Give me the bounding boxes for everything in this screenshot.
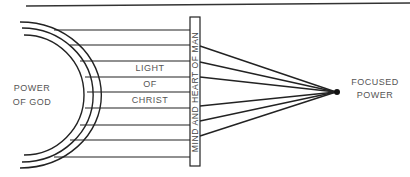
target-label-line2: POWER [345, 91, 405, 100]
lens-label: MIND AND HEART OF MAN [190, 25, 200, 159]
source-label-line2: OF GOD [10, 98, 54, 107]
target-label-line1: FOCUSED [345, 78, 405, 87]
target-label: FOCUSED POWER [345, 78, 405, 100]
source-label: POWER OF GOD [10, 84, 54, 107]
converging-rays [200, 46, 336, 136]
top-rule [26, 3, 410, 6]
channel-label-line3: CHRIST [120, 96, 180, 105]
focal-point [334, 89, 340, 95]
source-label-line1: POWER [10, 84, 54, 93]
channel-label-line1: LIGHT [120, 64, 180, 73]
channel-label-line2: OF [120, 80, 180, 89]
